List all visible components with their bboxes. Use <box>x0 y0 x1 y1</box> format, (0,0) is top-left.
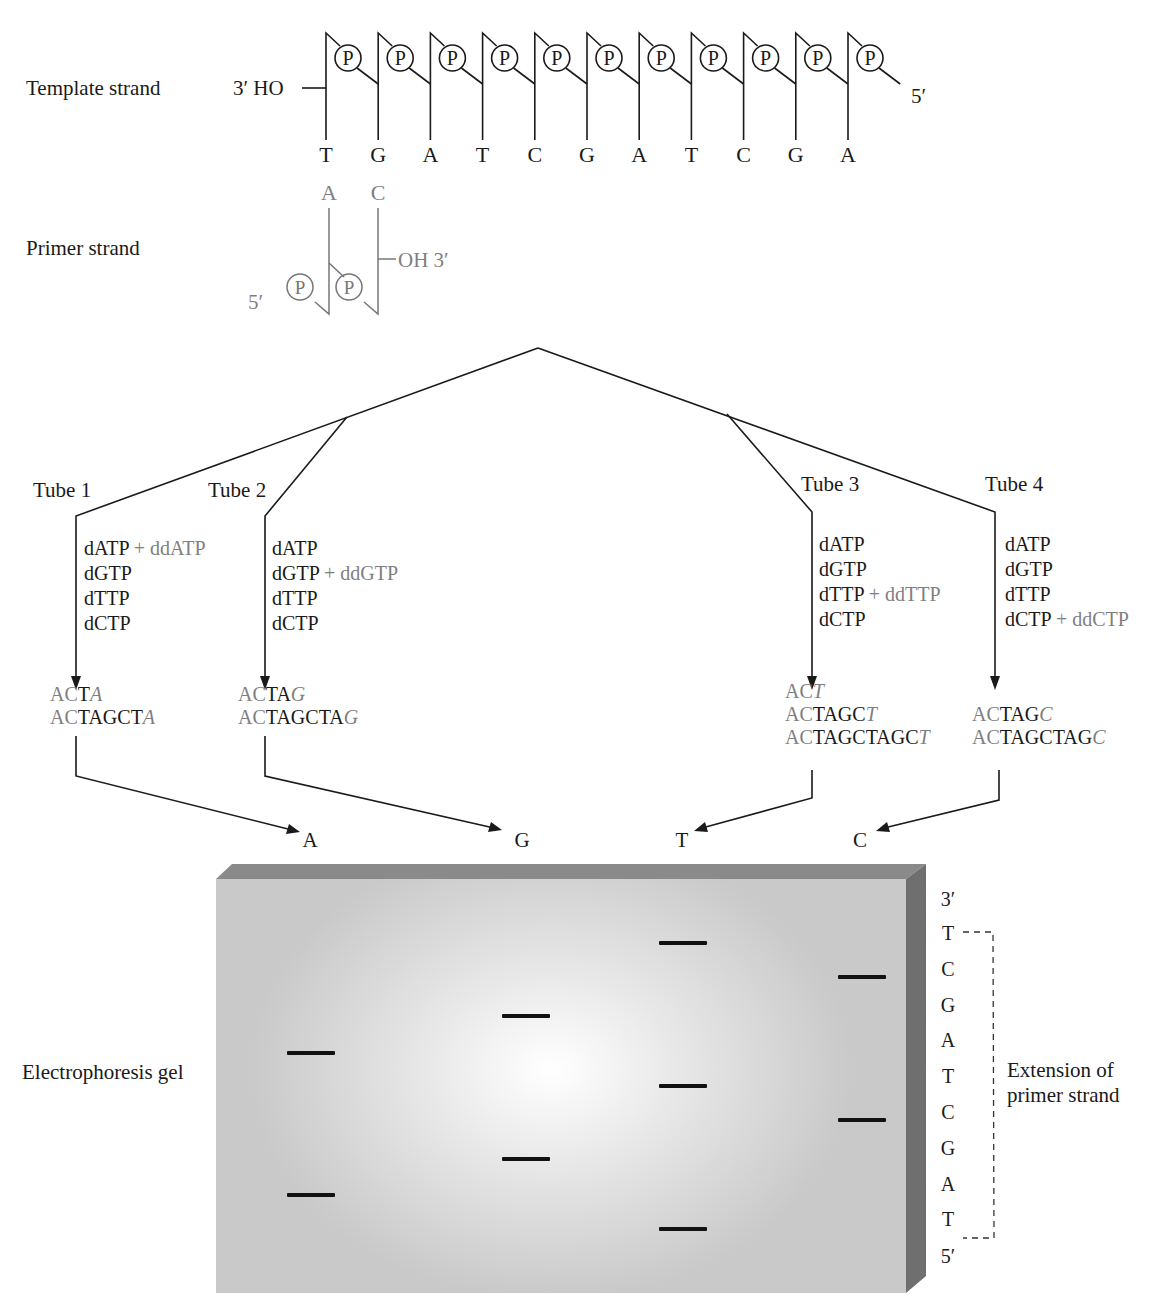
gel-band <box>287 1193 335 1197</box>
gel-band <box>502 1157 550 1161</box>
sequence-base: G <box>941 1137 955 1160</box>
sequence-base: T <box>942 922 954 945</box>
gel-band <box>838 1118 886 1122</box>
sequence-3prime: 3′ <box>941 888 955 911</box>
sequence-5prime: 5′ <box>941 1245 955 1268</box>
gel-band <box>659 1227 707 1231</box>
sequence-base: A <box>941 1029 955 1052</box>
gel-surface <box>216 879 906 1293</box>
gel-band <box>838 975 886 979</box>
sequence-base: C <box>941 1101 954 1124</box>
sequence-base: C <box>941 958 954 981</box>
gel-band <box>659 1084 707 1088</box>
sequence-base: T <box>942 1065 954 1088</box>
extension-label: Extension of primer strand <box>1007 1058 1120 1108</box>
gel-band <box>659 941 707 945</box>
gel-band <box>502 1014 550 1018</box>
sequence-base: G <box>941 994 955 1017</box>
sequence-base: A <box>941 1173 955 1196</box>
sequence-base: T <box>942 1208 954 1231</box>
gel-band <box>287 1051 335 1055</box>
